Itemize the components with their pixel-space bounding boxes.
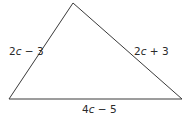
triangle-diagram: [0, 0, 185, 117]
left-side-coef: 2: [9, 45, 16, 57]
bottom-side-rest: − 5: [94, 103, 116, 115]
left-side-rest: − 3: [21, 45, 43, 57]
bottom-side-coef: 4: [82, 103, 89, 115]
right-side-label: 2c + 3: [134, 46, 169, 57]
right-side-coef: 2: [134, 45, 141, 57]
left-side-label: 2c − 3: [9, 46, 44, 57]
right-side-rest: + 3: [146, 45, 168, 57]
bottom-side-label: 4c − 5: [82, 104, 117, 115]
